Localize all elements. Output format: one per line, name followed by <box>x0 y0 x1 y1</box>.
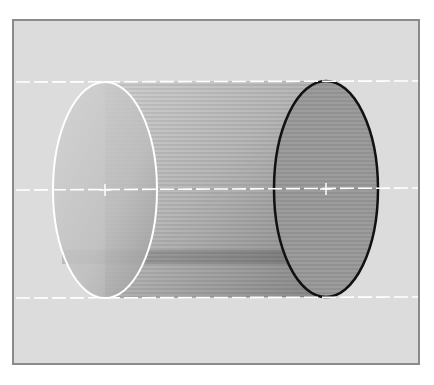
cylinder-diagram <box>0 0 434 385</box>
top-guide-line <box>16 81 418 82</box>
bottom-guide-line <box>16 297 418 298</box>
